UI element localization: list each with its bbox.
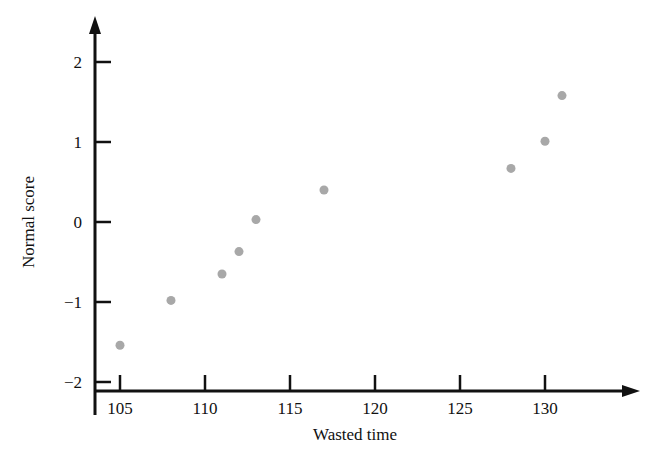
x-axis: 105110115120125130 <box>95 375 640 418</box>
y-axis-title: Normal score <box>19 176 38 268</box>
y-tick-label: −1 <box>64 293 82 312</box>
y-axis-arrowhead <box>89 16 101 34</box>
x-tick-label: 120 <box>362 399 388 418</box>
data-point-series <box>116 91 567 350</box>
y-axis-ticks <box>95 62 111 382</box>
data-point <box>320 186 329 195</box>
x-tick-label: 125 <box>447 399 473 418</box>
x-tick-label: 110 <box>193 399 218 418</box>
y-tick-label: 2 <box>74 53 83 72</box>
x-tick-label: 105 <box>107 399 133 418</box>
x-tick-label: 115 <box>278 399 303 418</box>
chart-canvas: 210−1−2 105110115120125130 Wasted time N… <box>0 0 648 455</box>
data-point <box>507 164 516 173</box>
x-axis-title: Wasted time <box>313 425 397 444</box>
data-point <box>235 247 244 256</box>
y-tick-label: 1 <box>74 133 83 152</box>
x-axis-tick-labels: 105110115120125130 <box>107 399 558 418</box>
data-point <box>252 215 261 224</box>
y-tick-label: −2 <box>64 373 82 392</box>
data-point <box>167 296 176 305</box>
data-point <box>218 270 227 279</box>
data-point <box>116 341 125 350</box>
y-tick-label: 0 <box>74 213 83 232</box>
x-axis-ticks <box>120 375 545 391</box>
data-point <box>558 91 567 100</box>
y-axis: 210−1−2 <box>64 16 111 415</box>
x-axis-arrowhead <box>622 385 640 397</box>
x-tick-label: 130 <box>532 399 558 418</box>
y-axis-tick-labels: 210−1−2 <box>64 53 82 392</box>
data-point <box>541 137 550 146</box>
scatter-plot-figure: 210−1−2 105110115120125130 Wasted time N… <box>0 0 648 455</box>
